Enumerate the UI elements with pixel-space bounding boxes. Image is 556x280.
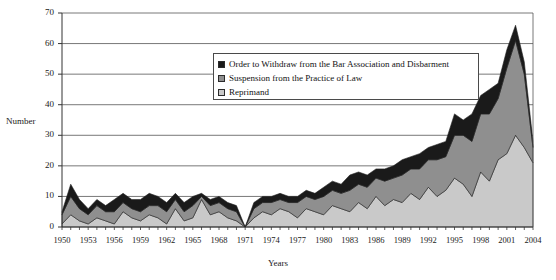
legend-item: Suspension from the Practice of Law [218,71,473,85]
y-axis-tick-label: 70 [0,7,54,17]
y-axis-tick-label: 10 [0,190,54,200]
legend-swatch-order-to-withdraw [218,61,225,68]
y-axis-tick-label: 20 [0,160,54,170]
legend-label-order-to-withdraw: Order to Withdraw from the Bar Associati… [229,59,449,69]
y-axis-title: Number [6,116,36,126]
x-axis-tick-label: 1950 [51,235,73,245]
legend-item: Order to Withdraw from the Bar Associati… [218,57,473,71]
x-axis-title: Years [268,258,288,268]
y-axis-tick-label: 50 [0,68,54,78]
x-axis-tick-label: 1992 [417,235,439,245]
x-axis-tick-label: 2004 [522,235,544,245]
legend-item: Reprimand [218,85,473,99]
x-axis-tick-label: 2001 [496,235,518,245]
y-axis-tick-label: 40 [0,99,54,109]
legend-swatch-suspension [218,75,225,82]
x-axis-tick-label: 1956 [103,235,125,245]
x-axis-tick-label: 1959 [130,235,152,245]
x-axis-tick-label: 1962 [156,235,178,245]
x-axis-tick-label: 1965 [182,235,204,245]
legend-label-reprimand: Reprimand [229,87,269,97]
y-axis-tick-label: 0 [0,221,54,231]
x-axis-tick-label: 1971 [234,235,256,245]
x-axis-tick-label: 1998 [470,235,492,245]
y-axis-tick-label: 60 [0,38,54,48]
x-axis-tick-label: 1983 [339,235,361,245]
x-axis-tick-label: 1989 [391,235,413,245]
y-axis-tick-label: 30 [0,129,54,139]
chart-container: Number Years Order to Withdraw from the … [0,0,556,280]
x-axis-tick-label: 1974 [260,235,282,245]
legend-swatch-reprimand [218,89,225,96]
x-axis-tick-label: 1953 [77,235,99,245]
x-axis-tick-label: 1986 [365,235,387,245]
x-axis-tick-label: 1977 [287,235,309,245]
x-axis-tick-label: 1995 [444,235,466,245]
x-axis-tick-label: 1980 [313,235,335,245]
legend-label-suspension: Suspension from the Practice of Law [229,73,362,83]
x-axis-tick-label: 1968 [208,235,230,245]
chart-legend: Order to Withdraw from the Bar Associati… [213,53,479,100]
